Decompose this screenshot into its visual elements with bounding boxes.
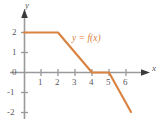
y-tick-label-0: 0 [12, 68, 17, 77]
x-tick-label-4: 4 [89, 78, 94, 87]
y-tick-label-2: 2 [12, 28, 17, 37]
y-axis-arrowhead [21, 9, 28, 18]
y-tick-label-neg2: -2 [7, 108, 15, 117]
x-tick-label-5: 5 [106, 78, 111, 87]
function-graph-figure: y x 1 2 3 4 5 6 2 1 0 -1 -2 y = f(x) [0, 0, 164, 121]
x-axis-label: x [152, 64, 156, 73]
x-tick-label-3: 3 [72, 78, 77, 87]
x-axis-arrowhead [141, 69, 150, 76]
graph-canvas [0, 0, 164, 121]
x-tick-label-2: 2 [55, 78, 60, 87]
y-tick-label-neg1: -1 [7, 88, 15, 97]
function-equation-label: y = f(x) [72, 34, 101, 44]
x-tick-label-6: 6 [123, 78, 128, 87]
y-axis-label: y [25, 1, 29, 10]
x-tick-label-1: 1 [38, 78, 43, 87]
y-tick-label-1: 1 [12, 48, 17, 57]
